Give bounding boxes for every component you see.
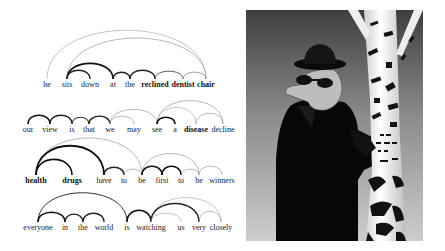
word-token: a: [173, 126, 177, 134]
word-token: view: [42, 126, 58, 134]
dependency-arc: [199, 211, 221, 222]
word-token: us: [177, 224, 184, 232]
dependency-arc: [38, 193, 127, 222]
word-token: to: [178, 177, 184, 185]
dependency-arc: [36, 159, 72, 175]
word-token: may: [127, 126, 141, 134]
word-token: winners: [209, 177, 234, 185]
word-token: disease: [184, 126, 208, 134]
word-token: our: [23, 126, 34, 134]
dependency-arc: [183, 72, 206, 79]
dependency-arc: [83, 213, 104, 222]
dependency-arc: [157, 117, 175, 124]
dependency-arc: [110, 116, 134, 124]
dependency-arc: [50, 115, 72, 124]
word-token: be: [138, 177, 146, 185]
dependency-arc: [142, 166, 162, 175]
word-token: everyone: [23, 224, 52, 232]
word-token: decline: [211, 126, 234, 134]
word-token: in: [62, 224, 68, 232]
word-token: chair: [197, 81, 215, 89]
word-token: the: [125, 81, 135, 89]
word-token: the: [78, 224, 88, 232]
spy-cartoon-image: [246, 10, 423, 241]
dependency-arc: [162, 166, 181, 175]
word-token: sits: [62, 81, 73, 89]
dependency-arc: [89, 116, 110, 124]
dependency-arc: [104, 167, 124, 175]
dependency-arc: [72, 117, 89, 124]
dependency-arc: [127, 210, 151, 222]
dependency-arc: [28, 115, 50, 124]
word-token: drugs: [62, 177, 82, 185]
word-token: at: [110, 81, 116, 89]
word-token: health: [25, 177, 46, 185]
word-token: that: [83, 126, 95, 134]
word-token: he: [43, 81, 51, 89]
dependency-arc: [155, 71, 183, 79]
word-token: world: [95, 224, 114, 232]
word-token: is: [69, 126, 74, 134]
dependency-arc: [142, 154, 199, 175]
word-token: have: [96, 177, 111, 185]
word-token: we: [105, 126, 114, 134]
dependency-arc: [181, 169, 199, 175]
dependency-arc: [196, 113, 223, 124]
dependency-arc: [151, 213, 181, 222]
word-token: see: [152, 126, 162, 134]
word-token: very: [192, 224, 206, 232]
dependency-arc: [65, 214, 83, 222]
sunglasses-icon: [296, 75, 312, 85]
word-token: to: [121, 177, 127, 185]
dependency-arc: [67, 70, 90, 79]
dependency-arc: [38, 212, 65, 222]
word-token: dentist: [171, 81, 194, 89]
dependency-arc: [199, 166, 222, 175]
word-token: watching: [136, 224, 165, 232]
word-token: reclined: [141, 81, 168, 89]
dependency-arc: [151, 198, 221, 222]
word-token: first: [156, 177, 169, 185]
dependency-arc: [113, 72, 130, 79]
dependency-arc: [124, 169, 142, 175]
dependency-arc: [36, 138, 142, 175]
dependency-arc: [130, 70, 155, 79]
dependency-arc: [157, 101, 223, 124]
word-token: down: [81, 81, 99, 89]
word-token: closely: [210, 224, 233, 232]
word-token: be: [195, 177, 203, 185]
word-token: is: [124, 224, 129, 232]
